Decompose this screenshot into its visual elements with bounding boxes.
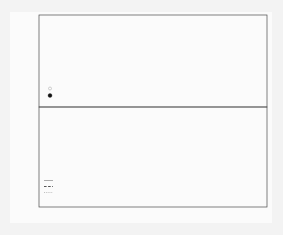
plot-background [0, 0, 283, 235]
figure-container [0, 0, 283, 235]
hubble-residual-plot [0, 0, 283, 235]
legend-marker-hst-filled-circle-icon [48, 94, 52, 98]
